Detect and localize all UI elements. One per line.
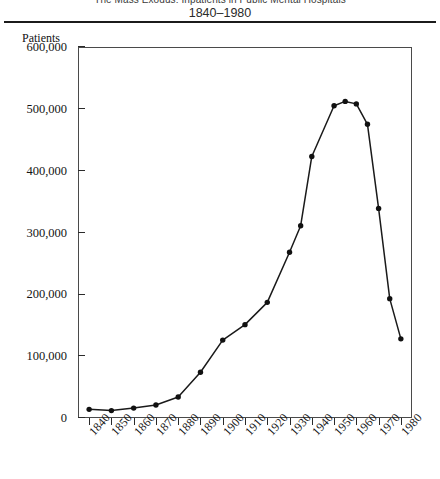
- x-axis-tick: [290, 418, 291, 425]
- x-axis-tick: [200, 418, 201, 425]
- y-axis-tick-label: 300,000: [0, 225, 67, 240]
- title-divider-rule: [4, 21, 436, 23]
- x-axis-tick: [401, 418, 402, 425]
- y-axis-tick-label: 200,000: [0, 287, 67, 302]
- x-axis-tick: [134, 418, 135, 425]
- y-axis-caption: Patients: [22, 31, 60, 46]
- chart-title-block: The Mass Exodus: Inpatients in Public Me…: [0, 0, 440, 21]
- x-axis-tick: [223, 418, 224, 425]
- x-axis-tick: [178, 418, 179, 425]
- y-axis-tick-label: 500,000: [0, 101, 67, 116]
- chart-page: The Mass Exodus: Inpatients in Public Me…: [0, 0, 440, 479]
- x-axis-tick: [312, 418, 313, 425]
- y-axis-tick-label: 400,000: [0, 163, 67, 178]
- x-axis-tick: [156, 418, 157, 425]
- x-axis-tick: [89, 418, 90, 425]
- x-axis-tick: [334, 418, 335, 425]
- y-axis-tick-label: 0: [0, 411, 67, 426]
- y-axis-tick-label: 100,000: [0, 349, 67, 364]
- x-axis-tick: [111, 418, 112, 425]
- plot-area-frame: [78, 47, 412, 418]
- x-axis-tick: [379, 418, 380, 425]
- x-axis-tick: [245, 418, 246, 425]
- chart-title-line2: 1840–1980: [0, 6, 440, 21]
- x-axis-tick: [267, 418, 268, 425]
- x-axis-tick: [356, 418, 357, 425]
